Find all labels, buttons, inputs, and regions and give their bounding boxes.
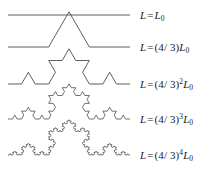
- label-coefficient-4: (4/ 3): [155, 149, 180, 161]
- label-equals-3: =: [146, 113, 154, 125]
- label-equals-1: =: [146, 41, 154, 53]
- koch-label-1: L=(4/ 3)L0: [140, 41, 189, 53]
- label-equals-2: =: [146, 78, 154, 90]
- label-equals-0: =: [146, 9, 154, 21]
- koch-curve-figure: L=L0 L=(4/ 3)L0 L=(4/ 3)2L0 L=(4/ 3)3L0 …: [0, 0, 205, 171]
- label-subscript-4: 0: [189, 154, 193, 163]
- label-exponent-4: 4: [179, 148, 183, 157]
- label-coefficient-3: (4/ 3): [155, 113, 180, 125]
- koch-label-2: L=(4/ 3)2L0: [140, 78, 193, 90]
- koch-label-0: L=L0: [140, 9, 165, 21]
- label-subscript-0: 0: [161, 14, 165, 23]
- label-subscript-2: 0: [189, 83, 193, 92]
- label-exponent-3: 3: [179, 112, 183, 121]
- label-subscript-1: 0: [185, 46, 189, 55]
- koch-curve-0: [0, 0, 205, 34]
- label-coefficient-1: (4/ 3): [155, 41, 180, 53]
- label-base-0: L: [155, 9, 161, 21]
- koch-label-4: L=(4/ 3)4L0: [140, 149, 193, 161]
- koch-label-3: L=(4/ 3)3L0: [140, 113, 193, 125]
- label-subscript-3: 0: [189, 118, 193, 127]
- label-equals-4: =: [146, 149, 154, 161]
- label-coefficient-2: (4/ 3): [155, 78, 180, 90]
- label-exponent-2: 2: [179, 77, 183, 86]
